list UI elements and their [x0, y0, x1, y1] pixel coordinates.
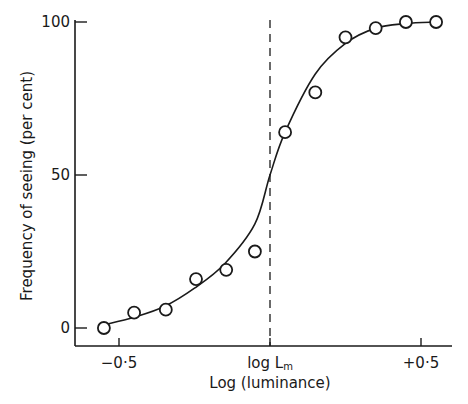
data-point	[309, 86, 321, 98]
plot-layer: 050100−0·5log Lm+0·5	[41, 13, 452, 372]
x-tick-label: log Lm	[247, 354, 293, 372]
y-axis-label: Frequency of seeing (per cent)	[18, 71, 36, 301]
x-tick-label: +0·5	[403, 354, 439, 372]
data-point	[340, 31, 352, 43]
data-point	[160, 304, 172, 316]
data-point	[370, 22, 382, 34]
y-tick-label: 50	[51, 166, 70, 184]
data-point	[249, 246, 261, 258]
data-point	[400, 16, 412, 28]
data-point	[128, 307, 140, 319]
y-tick-label: 100	[41, 13, 70, 31]
y-tick-label: 0	[60, 319, 70, 337]
psychometric-chart: 050100−0·5log Lm+0·5 Frequency of seeing…	[0, 0, 468, 404]
data-point	[220, 264, 232, 276]
x-axis-label: Log (luminance)	[209, 374, 330, 392]
data-point	[98, 322, 110, 334]
data-point	[279, 126, 291, 138]
data-point	[430, 16, 442, 28]
x-tick-label: −0·5	[101, 354, 137, 372]
data-point	[190, 273, 202, 285]
